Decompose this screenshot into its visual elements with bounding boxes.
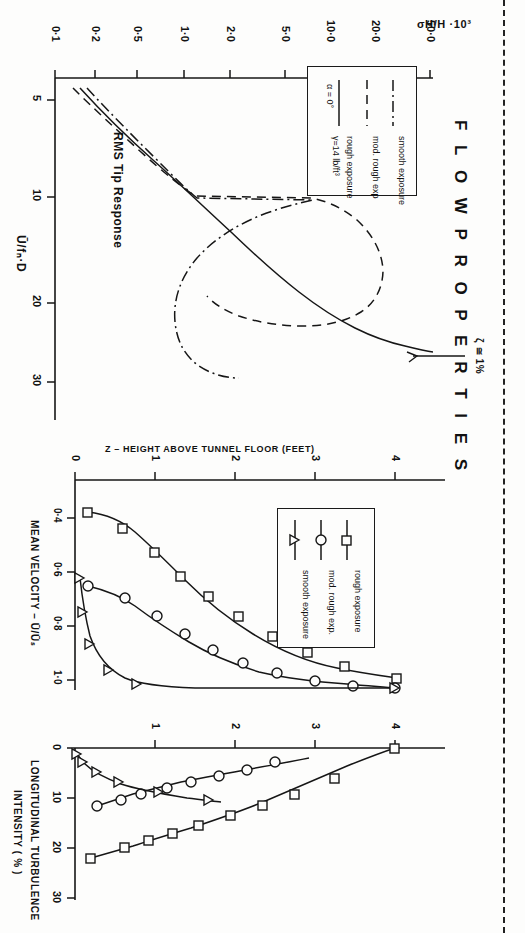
ti-xtick-30: 30 bbox=[51, 891, 63, 903]
ti-ytick-1: 1 bbox=[150, 723, 162, 729]
figure-page: F L O W P R O P E R T I E S bbox=[0, 0, 525, 933]
ti-ytick-2: 2 bbox=[230, 723, 242, 729]
ti-markers-rough bbox=[86, 744, 399, 863]
ti-ytick-4: 4 bbox=[390, 723, 402, 729]
turbulence-intensity-plot bbox=[0, 0, 525, 933]
ti-xaxis-label-line2: INTENSITY ( % ) bbox=[12, 790, 23, 875]
rotated-figure-canvas: F L O W P R O P E R T I E S bbox=[0, 0, 525, 933]
ti-axes bbox=[67, 740, 445, 900]
ti-xaxis-label-line1: LONGITUDINAL TURBULENCE bbox=[29, 760, 40, 921]
ti-xtick-0: 0 bbox=[51, 744, 63, 750]
ti-xtick-20: 20 bbox=[51, 841, 63, 853]
ti-ytick-3: 3 bbox=[310, 723, 322, 729]
ti-xtick-10: 10 bbox=[51, 791, 63, 803]
figure-body: F L O W P R O P E R T I E S bbox=[0, 0, 525, 933]
ti-curve-rough bbox=[91, 748, 395, 858]
